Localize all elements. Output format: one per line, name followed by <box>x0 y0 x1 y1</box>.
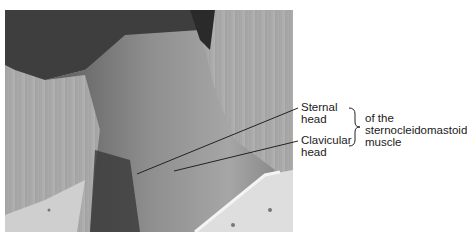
sternal-label-line2: head <box>301 113 337 125</box>
muscle-label-line1: of the <box>365 112 467 124</box>
neck-photograph <box>5 10 293 232</box>
clavicular-label-line2: head <box>301 146 352 158</box>
sternal-label-line1: Sternal <box>301 101 337 113</box>
clavicular-head-label: Clavicular head <box>301 134 352 158</box>
sternal-head-label: Sternal head <box>301 101 337 125</box>
clavicular-label-line1: Clavicular <box>301 134 352 146</box>
muscle-label-line3: muscle <box>365 136 467 148</box>
photo-illustration <box>5 10 293 232</box>
muscle-label: of the sternocleidomastoid muscle <box>365 112 467 148</box>
muscle-label-line2: sternocleidomastoid <box>365 124 467 136</box>
